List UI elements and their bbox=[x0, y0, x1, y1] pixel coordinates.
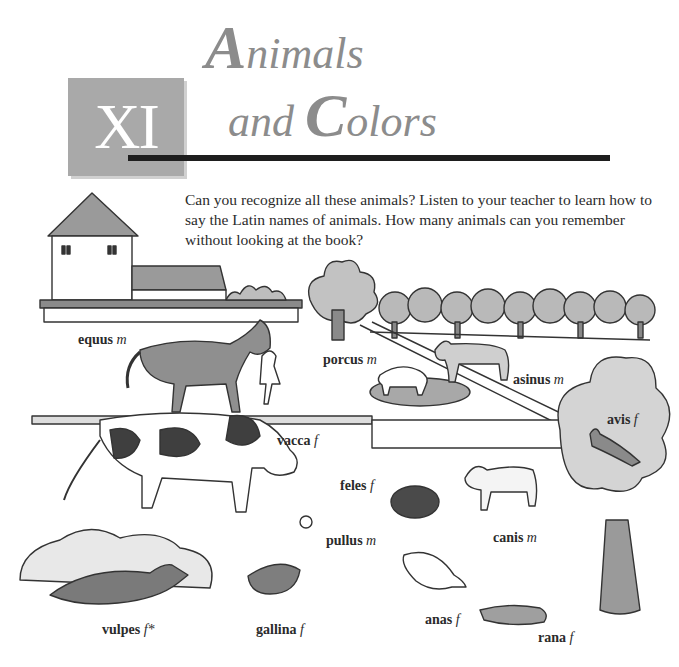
villa-illustration bbox=[40, 193, 302, 322]
label-vacca: vacca f bbox=[277, 433, 318, 449]
label-gallina: gallina f bbox=[256, 622, 304, 638]
label-asinus: asinus m bbox=[513, 372, 564, 388]
label-pullus: pullus m bbox=[326, 533, 376, 549]
hen-illustration bbox=[248, 564, 300, 594]
label-vulpes: vulpes f* bbox=[102, 622, 155, 638]
label-rana: rana f bbox=[538, 630, 573, 646]
label-anas: anas f bbox=[425, 612, 460, 628]
cat-illustration bbox=[391, 486, 439, 518]
horse-illustration bbox=[127, 320, 280, 412]
dog-illustration bbox=[465, 466, 537, 510]
cow-illustration bbox=[64, 413, 297, 512]
duck-illustration bbox=[403, 553, 466, 590]
big-tree-illustration bbox=[558, 357, 670, 614]
label-equus: equus m bbox=[78, 332, 127, 348]
label-feles: feles f bbox=[340, 478, 374, 494]
fence-back bbox=[370, 332, 650, 340]
label-porcus: porcus m bbox=[323, 352, 377, 368]
donkey-illustration bbox=[435, 341, 509, 382]
label-canis: canis m bbox=[493, 530, 537, 546]
fence-right bbox=[372, 420, 572, 448]
tree-row-illustration bbox=[379, 288, 655, 338]
frog-illustration bbox=[480, 605, 546, 624]
label-avis: avis f bbox=[607, 412, 638, 428]
chick-illustration bbox=[300, 516, 312, 528]
